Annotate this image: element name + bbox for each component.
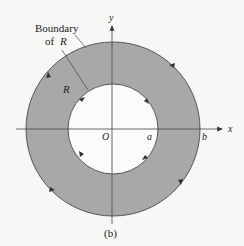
diagram-canvas: Boundary of R R O a b x y (b) bbox=[0, 0, 244, 246]
boundary-leader bbox=[75, 35, 86, 48]
region-label: R bbox=[62, 83, 70, 95]
boundary-label: Boundary bbox=[35, 22, 79, 34]
annulus-diagram: Boundary of R R O a b x y (b) bbox=[0, 0, 244, 246]
inner-radius-label: a bbox=[147, 131, 152, 142]
figure-caption: (b) bbox=[104, 227, 117, 240]
y-axis-label: y bbox=[108, 12, 114, 23]
boundary-of-label: of bbox=[45, 35, 55, 47]
boundary-r-label: R bbox=[59, 35, 67, 47]
x-axis-label: x bbox=[227, 123, 233, 134]
outer-radius-label: b bbox=[202, 131, 207, 142]
origin-label: O bbox=[102, 131, 109, 142]
